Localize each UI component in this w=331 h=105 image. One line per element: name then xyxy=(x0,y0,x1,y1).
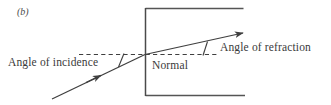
refraction-angle-tick xyxy=(203,42,208,56)
angle-of-incidence-label: Angle of incidence xyxy=(8,57,98,69)
angle-of-refraction-label: Angle of refraction xyxy=(220,42,311,54)
normal-label: Normal xyxy=(152,60,188,72)
incident-ray-direction-arrow xyxy=(86,75,101,82)
panel-label: (b) xyxy=(17,7,29,17)
refraction-figure: (b) Angle of incidence Normal Angle of r… xyxy=(0,0,331,105)
